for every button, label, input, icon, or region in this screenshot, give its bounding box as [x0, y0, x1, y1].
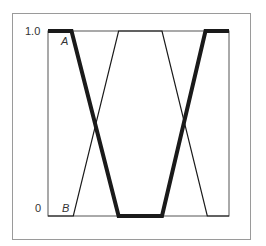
plot-area-border [48, 31, 229, 216]
y-tick-bottom: 0 [35, 203, 41, 214]
curve-label-a: A [61, 36, 68, 47]
series-b-line [48, 31, 229, 216]
series-a-line [48, 31, 229, 216]
y-tick-top: 1.0 [25, 26, 40, 37]
series-layer [48, 31, 229, 216]
curve-label-b: B [62, 203, 69, 214]
